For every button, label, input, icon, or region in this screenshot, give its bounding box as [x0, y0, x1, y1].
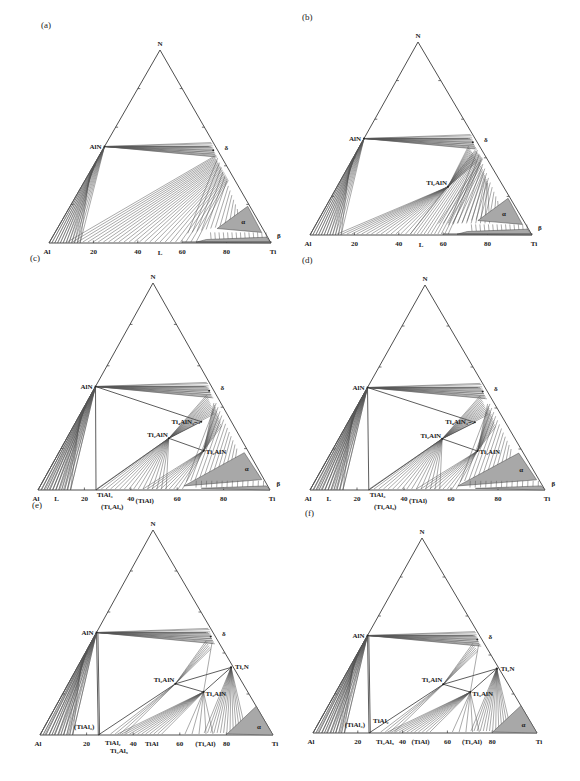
tick-label: 20 — [354, 738, 362, 746]
phase-label-tial: (TiAl) — [411, 738, 430, 746]
phase-label-liquid: L — [54, 495, 59, 503]
corner-label-al: Al — [35, 740, 42, 748]
alpha-region — [478, 198, 523, 224]
panel-label: (a) — [41, 20, 51, 30]
corner-label-ti: Ti — [269, 495, 276, 503]
tick-label: 40 — [127, 495, 135, 503]
tick-label: 40 — [395, 240, 403, 248]
corner-label-ti: Ti — [272, 740, 279, 748]
ternary-phase-diagrams: (a)NAlTi20406080δAlNLαβ(b)NAlTi20406080δ… — [0, 0, 580, 781]
phase-label-ti3al5: Ti₃Al₅ — [376, 738, 394, 746]
phase-label-aln: AlN — [352, 632, 364, 640]
phase-label-ti4aln3: Ti₄AlN₃₋ₓ — [445, 418, 475, 426]
phase-label-ti3al5: Ti₃Al₅ — [110, 747, 128, 755]
phase-label-ti3al: (Ti₃Al) — [462, 738, 483, 746]
phase-label-ti2n: Ti₂N — [501, 665, 515, 673]
phase-label-aln: AlN — [81, 629, 93, 637]
phase-label-aln: AlN — [80, 383, 92, 391]
tick-label: 20 — [81, 495, 89, 503]
tick-label: 20 — [90, 248, 98, 256]
phase-label-liquid: L — [419, 241, 424, 249]
tick-label: 80 — [223, 740, 231, 748]
phase-label-alpha: α — [502, 210, 506, 218]
phase-label-ti2al5: (Ti₂Al₅) — [101, 503, 124, 511]
tick-label: 60 — [176, 740, 184, 748]
phase-label-delta: δ — [494, 385, 498, 393]
corner-label-ti: Ti — [270, 248, 277, 256]
phase-label-delta: δ — [489, 633, 493, 641]
phase-diagram-e: (e)NAlTi20406080δAlNTi₂NTi₂AlNTi₃AlNα(Ti… — [32, 500, 278, 755]
phase-label-tial: (TiAl) — [409, 497, 428, 505]
corner-label-n: N — [422, 275, 427, 283]
corner-label-ti: Ti — [544, 495, 551, 503]
tick-label: 40 — [134, 248, 142, 256]
corner-label-n: N — [150, 273, 155, 281]
phase-label-ti2al5: (Ti₂Al₅) — [374, 503, 397, 511]
phase-diagram-c: (c)NAlTi20406080δAlNTi₄AlN₃₋ₓTi₂AlNTi₃Al… — [30, 253, 281, 511]
phase-label-beta: β — [552, 480, 556, 488]
alpha-region — [227, 706, 273, 735]
tick-label: 20 — [351, 240, 359, 248]
phase-label-aln: AlN — [89, 143, 101, 151]
phase-label-ti3aln: Ti₃AlN — [472, 690, 493, 698]
phase-label-aln: AlN — [352, 384, 364, 392]
corner-label-al: Al — [308, 738, 315, 746]
phase-label-tial: TiAl — [145, 740, 159, 748]
phase-label-ti2n: Ti₂N — [235, 663, 249, 671]
corner-label-ti: Ti — [536, 738, 543, 746]
phase-label-ti3aln: Ti₃AlN — [206, 690, 227, 698]
panel-label: (e) — [32, 500, 42, 510]
phase-diagram-d: (d)NAlTi20406080δAlNTi₄AlN₃₋ₓTi₂AlNTi₃Al… — [302, 255, 556, 511]
phase-label-tial3: TiAl₃ — [370, 491, 386, 499]
phase-label-tial2: TiAl₂ — [105, 739, 121, 747]
tick-label: 80 — [495, 495, 503, 503]
phase-label-alpha: α — [241, 218, 245, 226]
corner-label-n: N — [415, 32, 420, 40]
phase-label-liquid: L — [158, 249, 163, 257]
phase-label-aln: AlN — [349, 135, 361, 143]
panel-label: (d) — [302, 255, 313, 265]
tick-label: 80 — [220, 495, 228, 503]
tick-label: 40 — [401, 495, 409, 503]
panel-label: (b) — [302, 12, 313, 22]
phase-label-ti2aln: Ti₂AlN — [426, 179, 447, 187]
corner-label-al: Al — [44, 248, 51, 256]
panel-label: (f) — [305, 508, 314, 518]
tick-label: 60 — [448, 495, 456, 503]
phase-label-alpha: α — [245, 465, 249, 473]
phase-label-delta: δ — [225, 144, 229, 152]
phase-diagram-f: (f)NAlTi20406080δAlNTi₂NTi₂AlNTi₃AlNα(Ti… — [305, 508, 542, 746]
phase-label-beta: β — [277, 480, 281, 488]
corner-label-ti: Ti — [531, 240, 538, 248]
tick-label: 20 — [83, 740, 91, 748]
phase-label-alpha: α — [519, 466, 523, 474]
alpha-region — [217, 206, 261, 232]
phase-label-ti2aln: Ti₂AlN — [421, 432, 442, 440]
phase-label-delta: δ — [221, 384, 225, 392]
tick-label: 40 — [130, 740, 138, 748]
phase-label-ti3aln: Ti₃AlN — [480, 448, 501, 456]
corner-label-al: Al — [305, 495, 312, 503]
phase-label-ti4aln3: Ti₄AlN₃₋ₓ — [171, 418, 201, 426]
phase-label-delta: δ — [484, 136, 488, 144]
phase-diagram-b: (b)NAlTi20406080δAlNLTi₂AlNαβ — [302, 12, 542, 249]
corner-label-n: N — [157, 40, 162, 48]
tick-label: 40 — [399, 738, 407, 746]
tick-label: 80 — [484, 240, 492, 248]
tick-label: 60 — [440, 240, 448, 248]
corner-label-n: N — [150, 520, 155, 528]
phase-label-tial3: (TiAl₃) — [345, 721, 366, 729]
phase-diagram-a: (a)NAlTi20406080δAlNLαβ — [41, 20, 281, 257]
corner-label-al: Al — [305, 240, 312, 248]
panel-label: (c) — [30, 253, 40, 263]
phase-label-tial2: TiAl₂ — [373, 717, 389, 725]
phase-label-tial3: (TiAl₃) — [74, 723, 95, 731]
phase-label-beta: β — [277, 232, 281, 240]
phase-label-ti3al: (Ti₃Al) — [195, 740, 216, 748]
phase-label-tial3: TiAl₃ — [97, 491, 113, 499]
phase-label-tial: (TiAl) — [136, 497, 155, 505]
phase-label-ti3aln: Ti₃AlN — [206, 448, 227, 456]
phase-label-alpha: α — [521, 721, 525, 729]
alpha-region — [493, 706, 537, 733]
phase-label-liquid: L — [326, 495, 331, 503]
